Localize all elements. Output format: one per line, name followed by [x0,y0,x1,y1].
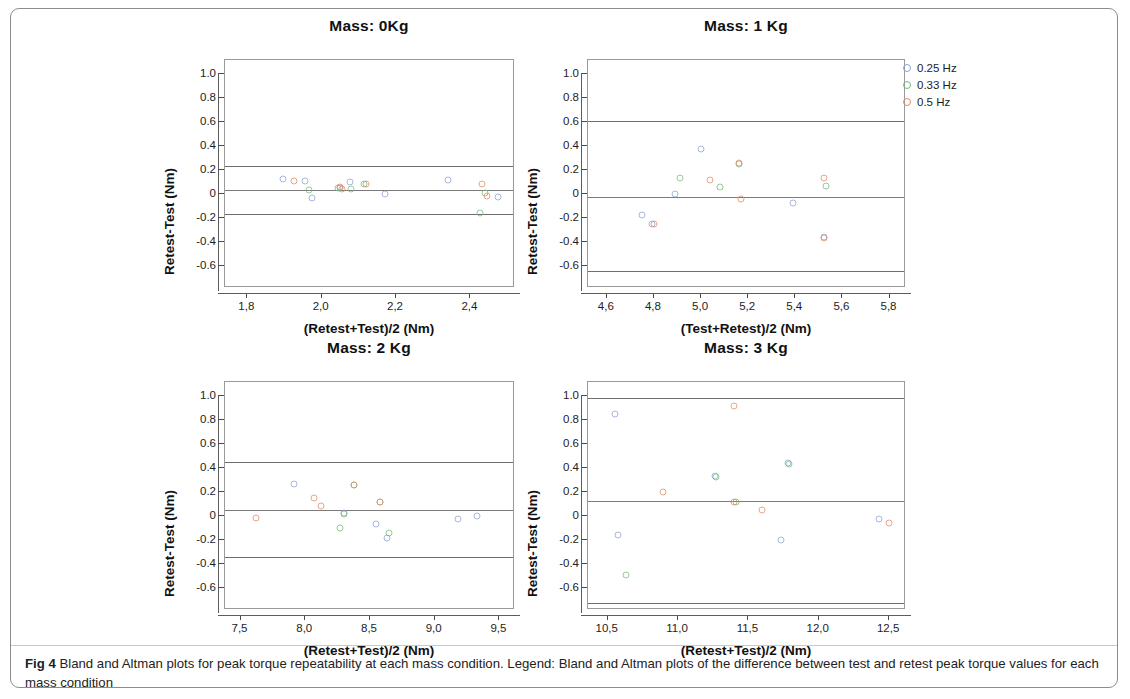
x-tick-label: 9,0 [426,622,442,634]
data-point [279,176,286,183]
data-point [341,511,348,518]
data-point [650,220,657,227]
y-tick-mark [219,395,224,396]
y-tick-mark [582,121,587,122]
data-point [381,190,388,197]
y-tick-mark [219,587,224,588]
y-tick-label: 0.8 [178,413,216,425]
reference-line-upper [588,398,904,399]
y-tick-mark [219,193,224,194]
y-tick-label: -0.2 [541,533,579,545]
x-tick-label: 2,4 [461,300,477,312]
y-tick-mark [219,97,224,98]
reference-line-lower [225,557,513,558]
data-point [373,520,380,527]
data-point [455,515,462,522]
plot-area [224,59,514,287]
data-point [789,199,796,206]
data-point [317,502,324,509]
data-point [731,499,738,506]
data-point [290,481,297,488]
y-tick-mark [219,563,224,564]
data-point [348,186,355,193]
x-tick-label: 2,0 [313,300,329,312]
legend-label: 0.33 Hz [917,79,957,91]
y-tick-mark [582,563,587,564]
data-point [305,186,312,193]
y-tick-label: 1.0 [178,389,216,401]
data-point [363,180,370,187]
y-tick-label: 0.8 [541,413,579,425]
data-point [707,177,714,184]
figure-legend: 0.25 Hz0.33 Hz0.5 Hz [903,59,957,110]
y-axis-spine [581,395,582,613]
x-tick-label: 4,8 [645,300,661,312]
data-point [337,525,344,532]
figure-caption: Fig 4 Bland and Altman plots for peak to… [25,654,1115,688]
y-tick-label: 0 [178,509,216,521]
data-point [611,410,618,417]
y-axis-spine [218,73,219,291]
plot-area [587,381,905,609]
data-point [311,494,318,501]
reference-line-lower [588,271,904,272]
y-tick-mark [219,73,224,74]
y-tick-label: -0.4 [178,557,216,569]
y-tick-label: 0 [541,187,579,199]
x-tick-label: 11,5 [737,622,759,634]
data-point [659,489,666,496]
reference-line-mean [588,501,904,502]
data-point [639,212,646,219]
data-point [309,195,316,202]
legend-marker-icon [903,81,911,89]
x-axis-spine [218,615,520,616]
data-point [351,481,358,488]
x-tick-label: 11,0 [666,622,688,634]
y-tick-mark [219,419,224,420]
x-tick-label: 1,8 [238,300,254,312]
data-point [759,507,766,514]
x-tick-label: 7,5 [232,622,248,634]
data-point [386,530,393,537]
y-tick-label: -0.6 [541,581,579,593]
y-tick-mark [582,491,587,492]
y-tick-label: 0.4 [541,461,579,473]
y-tick-label: 0 [178,187,216,199]
y-tick-mark [582,145,587,146]
y-tick-label: -0.2 [178,211,216,223]
data-point [886,520,893,527]
y-tick-label: 1.0 [541,389,579,401]
y-tick-label: 0.8 [541,91,579,103]
data-point [731,403,738,410]
data-point [822,183,829,190]
reference-line-upper [225,166,513,167]
y-tick-label: -0.4 [178,235,216,247]
caption-divider [11,645,1117,646]
figure-card: Mass: 0Kg1.00.80.60.40.20-0.2-0.4-0.61,8… [10,8,1118,688]
y-axis-label: Retest-Test (Nm) [525,168,540,275]
data-point [876,516,883,523]
x-tick-label: 10,5 [595,622,617,634]
data-point [346,178,353,185]
data-point [484,193,491,200]
panel-title: Mass: 2 Kg [224,339,514,357]
y-tick-label: -0.6 [541,259,579,271]
y-axis-spine [581,73,582,291]
y-axis-label: Retest-Test (Nm) [162,490,177,597]
y-tick-label: 0.8 [178,91,216,103]
x-tick-label: 5,4 [786,300,802,312]
reference-line-lower [225,214,513,215]
reference-line-mean [588,197,904,198]
x-tick-label: 4,6 [598,300,614,312]
data-point [786,460,793,467]
y-tick-label: 0.4 [178,139,216,151]
y-tick-mark [582,193,587,194]
data-point [476,210,483,217]
data-point [735,160,742,167]
y-tick-mark [219,241,224,242]
y-tick-mark [219,265,224,266]
data-point [301,177,308,184]
data-point [478,181,485,188]
data-point [777,537,784,544]
plot-panel-1: Mass: 1 Kg1.00.80.60.40.20-0.2-0.4-0.64,… [571,17,945,347]
